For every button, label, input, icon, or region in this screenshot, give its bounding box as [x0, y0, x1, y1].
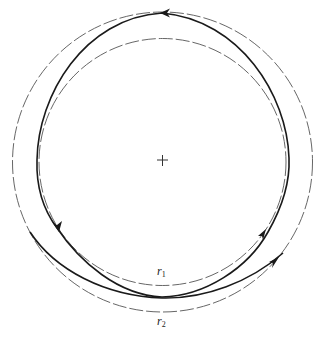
label-r2: r2 [157, 315, 166, 329]
orbit-diagram [0, 0, 328, 339]
center-marker-icon [157, 155, 168, 166]
orbit-path-main [37, 13, 289, 297]
label-r1: r1 [157, 265, 166, 279]
